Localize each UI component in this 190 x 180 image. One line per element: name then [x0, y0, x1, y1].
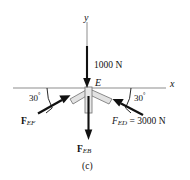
- force-ef-subscript: EF: [27, 119, 36, 127]
- force-eb-label: FEB: [77, 145, 91, 155]
- member-ed-bar: [90, 90, 112, 104]
- y-axis-label: y: [84, 13, 88, 23]
- figure-caption: (c): [82, 162, 93, 172]
- force-ed-value: = 3000 N: [130, 116, 166, 126]
- force-eb-subscript: EB: [83, 147, 92, 155]
- x-axis-label: x: [170, 79, 174, 89]
- angle-left-unit: °: [38, 92, 40, 98]
- joint-label-e: E: [95, 78, 101, 88]
- free-body-diagram: y x E 1000 N 30° 30° FEF FED = 3000 N FE…: [0, 0, 190, 180]
- angle-right-value: 30: [134, 93, 143, 103]
- force-ef-arrow: [38, 95, 71, 113]
- force-ed-label: FED = 3000 N: [112, 117, 166, 127]
- force-ef-label: FEF: [21, 117, 35, 127]
- angle-label-right: 30°: [134, 92, 145, 103]
- angle-label-left: 30°: [29, 92, 40, 103]
- load-1000n-label: 1000 N: [94, 61, 122, 71]
- angle-right-unit: °: [143, 92, 145, 98]
- load-1000n-arrow: [83, 46, 91, 88]
- force-ed-subscript: ED: [118, 119, 127, 127]
- diagram-canvas: [0, 0, 190, 180]
- angle-left-value: 30: [29, 93, 38, 103]
